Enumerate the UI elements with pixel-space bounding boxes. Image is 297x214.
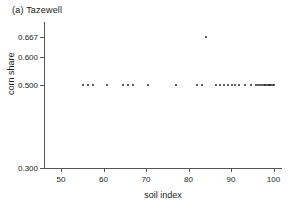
data-point [175, 84, 177, 86]
data-point [205, 36, 207, 38]
y-tick-label: 0.500 [18, 80, 38, 89]
x-tick-label: 100 [267, 175, 280, 184]
data-point [244, 84, 246, 86]
data-point [238, 84, 240, 86]
data-point [82, 84, 84, 86]
data-point [219, 84, 221, 86]
data-point [223, 84, 225, 86]
data-point [147, 84, 149, 86]
data-point [273, 84, 275, 86]
y-tick-label: 0.600 [18, 53, 38, 62]
x-tick-mark [104, 168, 105, 172]
x-tick-label: 80 [184, 175, 193, 184]
x-axis-line [44, 168, 282, 169]
x-tick-label: 60 [99, 175, 108, 184]
data-point [234, 84, 236, 86]
data-point [87, 84, 89, 86]
x-tick-mark [231, 168, 232, 172]
data-point [92, 84, 94, 86]
x-tick-mark [61, 168, 62, 172]
y-tick-label: 0.300 [18, 164, 38, 173]
chart-figure: (a) Tazewell 0.3000.5000.6000.6675060708… [0, 0, 297, 214]
y-tick-mark [40, 168, 44, 169]
data-point [127, 84, 129, 86]
data-point [196, 84, 198, 86]
data-point [250, 84, 252, 86]
x-tick-label: 50 [57, 175, 66, 184]
y-axis-label: corn share [6, 52, 16, 95]
x-tick-mark [274, 168, 275, 172]
data-point [106, 84, 108, 86]
data-point [215, 84, 217, 86]
x-tick-label: 70 [142, 175, 151, 184]
plot-area: 0.3000.5000.6000.6675060708090100 [44, 22, 282, 168]
y-tick-label: 0.667 [18, 32, 38, 41]
y-tick-mark [40, 57, 44, 58]
data-point [227, 84, 229, 86]
data-point [201, 84, 203, 86]
x-axis-label: soil index [44, 190, 282, 200]
data-point [132, 84, 134, 86]
x-tick-mark [189, 168, 190, 172]
panel-title: (a) Tazewell [12, 5, 62, 15]
x-tick-label: 90 [227, 175, 236, 184]
data-point [122, 84, 124, 86]
x-tick-mark [146, 168, 147, 172]
y-tick-mark [40, 37, 44, 38]
data-point [231, 84, 233, 86]
y-tick-mark [40, 85, 44, 86]
